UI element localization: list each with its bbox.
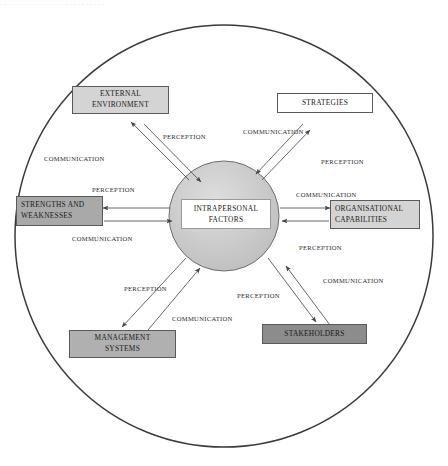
node-external-environment[interactable]: EXTERNAL ENVIRONMENT <box>72 86 169 114</box>
node-organisational-capabilities-line1: ORGANISATIONAL <box>335 204 403 215</box>
label-strengths-perception: PERCEPTION <box>92 186 135 193</box>
arrow-centre-to-external-environment <box>131 122 189 180</box>
arrow-stakeholders-to-centre <box>286 266 330 325</box>
diagram-vector-layer <box>0 0 448 466</box>
label-strengths-communication: COMMUNICATION <box>72 235 133 242</box>
node-strategies[interactable]: STRATEGIES <box>277 93 373 113</box>
intrapersonal-factors-line2: FACTORS <box>194 214 259 225</box>
node-strategies-line1: STRATEGIES <box>302 98 348 109</box>
node-management-systems-line1: MANAGEMENT <box>95 333 151 344</box>
node-organisational-capabilities[interactable]: ORGANISATIONAL CAPABILITIES <box>330 200 420 229</box>
label-stakeholders-perception: PERCEPTION <box>237 292 280 299</box>
label-management-systems-perception: PERCEPTION <box>124 285 167 292</box>
arrow-centre-to-strategies <box>262 130 310 180</box>
node-organisational-capabilities-line2: CAPABILITIES <box>335 215 403 226</box>
label-strategies-communication: COMMUNICATION <box>243 128 304 135</box>
node-strengths-and-weaknesses-line2: WEAKNESSES <box>21 211 84 222</box>
intrapersonal-factors-line1: INTRAPERSONAL <box>194 203 259 214</box>
label-organisational-capabilities-communication: COMMUNICATION <box>296 191 357 198</box>
node-external-environment-line1: EXTERNAL <box>92 89 149 100</box>
node-strengths-and-weaknesses[interactable]: STRENGTHS AND WEAKNESSES <box>16 196 103 226</box>
label-external-environment-communication: COMMUNICATION <box>44 155 105 162</box>
node-stakeholders[interactable]: STAKEHOLDERS <box>262 324 367 344</box>
node-management-systems[interactable]: MANAGEMENT SYSTEMS <box>69 330 176 358</box>
node-strengths-and-weaknesses-line1: STRENGTHS AND <box>21 200 84 211</box>
label-external-environment-perception: PERCEPTION <box>163 133 206 140</box>
arrow-centre-to-stakeholders <box>268 258 316 322</box>
node-external-environment-line2: ENVIRONMENT <box>92 100 149 111</box>
label-strategies-perception: PERCEPTION <box>321 158 364 165</box>
node-stakeholders-line1: STAKEHOLDERS <box>284 329 344 340</box>
label-management-systems-communication: COMMUNICATION <box>172 315 233 322</box>
label-organisational-capabilities-perception: PERCEPTION <box>299 244 342 251</box>
node-management-systems-line2: SYSTEMS <box>95 344 151 355</box>
diagram-canvas: - - - - - - - - - - - - - - - - - - - - … <box>0 0 448 466</box>
label-stakeholders-communication: COMMUNICATION <box>323 277 384 284</box>
intrapersonal-factors-label-box: INTRAPERSONAL FACTORS <box>181 199 271 229</box>
